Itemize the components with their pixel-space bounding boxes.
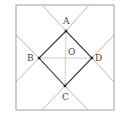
label-a: A xyxy=(62,16,70,26)
geometry-figure: A B C D O xyxy=(0,0,121,120)
label-b: B xyxy=(27,53,34,63)
point-a xyxy=(65,30,67,32)
point-d xyxy=(91,57,93,59)
label-d: D xyxy=(95,53,102,63)
point-c xyxy=(64,85,66,87)
diagonal-ac xyxy=(65,31,66,86)
label-c: C xyxy=(62,92,69,102)
label-o: O xyxy=(68,47,75,57)
point-b xyxy=(38,57,40,59)
diagonals xyxy=(39,31,92,86)
